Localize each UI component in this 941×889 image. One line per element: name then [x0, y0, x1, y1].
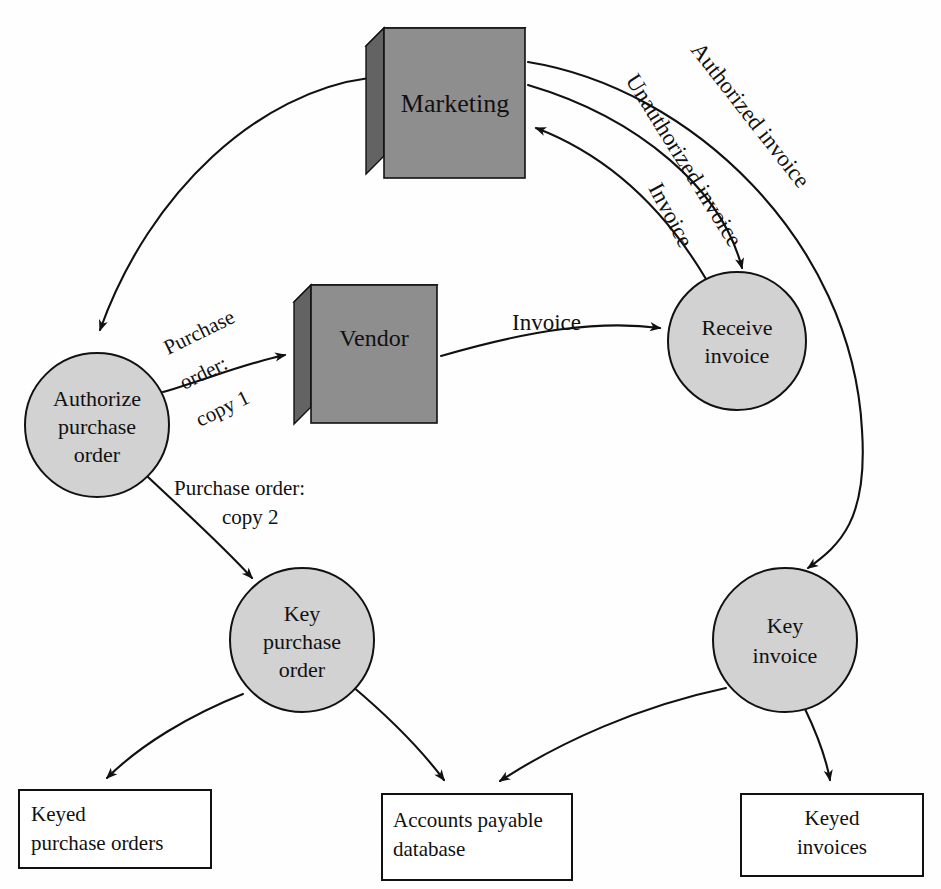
data-store-accounts-payable-database[interactable]: Accounts payable database	[382, 794, 572, 880]
flow-key-purchase-order-to-accounts-payable	[352, 686, 444, 780]
key-invoice-line-1: Key	[767, 613, 804, 638]
key-purchase-order-line-1: Key	[284, 601, 321, 626]
process-authorize-purchase-order[interactable]: Authorize purchase order	[25, 353, 169, 497]
external-entity-vendor[interactable]: Vendor	[294, 285, 437, 424]
keyed-purchase-orders-line-2: purchase orders	[31, 831, 163, 855]
receive-invoice-line-2: invoice	[705, 343, 770, 368]
authorize-purchase-order-line-1: Authorize	[53, 386, 141, 411]
data-flow-diagram: Marketing Vendor Authorize purchase orde…	[0, 0, 941, 889]
receive-invoice-circle	[668, 272, 806, 410]
key-purchase-order-line-3: order	[279, 657, 326, 682]
vendor-label: Vendor	[339, 325, 408, 351]
flow-label-purchase-order-copy1-line1: Purchase	[160, 305, 239, 360]
accounts-payable-database-line-1: Accounts payable	[393, 808, 543, 832]
marketing-label: Marketing	[401, 89, 509, 118]
external-entity-marketing[interactable]: Marketing	[366, 28, 525, 178]
authorize-purchase-order-line-3: order	[74, 442, 121, 467]
data-store-keyed-purchase-orders[interactable]: Keyed purchase orders	[19, 790, 211, 868]
keyed-invoices-line-1: Keyed	[805, 806, 860, 830]
keyed-purchase-orders-line-1: Keyed	[31, 802, 86, 826]
process-key-invoice[interactable]: Key invoice	[713, 568, 857, 712]
flow-label-invoice-vendor-to-receive: Invoice	[512, 310, 581, 335]
authorize-purchase-order-line-2: purchase	[58, 414, 136, 439]
vendor-box-front	[311, 285, 437, 423]
key-invoice-circle	[713, 568, 857, 712]
process-key-purchase-order[interactable]: Key purchase order	[230, 568, 374, 712]
flow-label-purchase-order-copy2-line1: Purchase order:	[174, 476, 305, 500]
flow-key-invoice-to-keyed-invoices	[805, 709, 830, 780]
flow-key-purchase-order-to-keyed-purchase-orders	[107, 694, 243, 778]
flow-key-invoice-to-accounts-payable	[500, 688, 726, 781]
diagram-canvas: Marketing Vendor Authorize purchase orde…	[0, 0, 941, 889]
flow-label-purchase-order-copy1-line3: copy 1	[192, 385, 253, 431]
flow-label-purchase-order-copy1-line2: order:	[176, 351, 232, 395]
key-purchase-order-line-2: purchase	[263, 629, 341, 654]
data-store-keyed-invoices[interactable]: Keyed invoices	[741, 794, 923, 876]
vendor-box-side	[294, 285, 311, 424]
accounts-payable-database-line-2: database	[393, 837, 465, 861]
flow-label-purchase-order-copy2-line2: copy 2	[222, 505, 279, 529]
key-invoice-line-2: invoice	[753, 643, 818, 668]
marketing-box-side	[366, 28, 384, 174]
receive-invoice-line-1: Receive	[702, 315, 773, 340]
keyed-invoices-line-2: invoices	[797, 835, 867, 859]
process-receive-invoice[interactable]: Receive invoice	[668, 272, 806, 410]
